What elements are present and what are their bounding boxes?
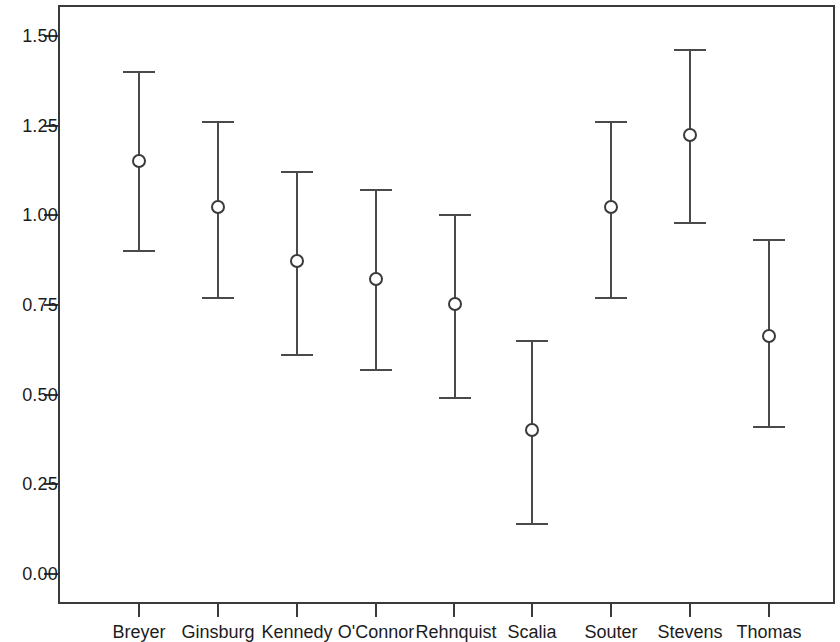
x-tick-mark-ginsburg xyxy=(217,604,219,617)
x-tick-label-ginsburg: Ginsburg xyxy=(181,623,254,641)
error-bar-lower-cap xyxy=(516,523,548,525)
error-bar-lower-cap xyxy=(123,250,155,252)
error-bar-souter[interactable] xyxy=(591,119,631,299)
y-tick-label-0-75: 0.75 xyxy=(22,296,58,314)
error-bar-upper-cap xyxy=(753,239,785,241)
data-point-marker[interactable] xyxy=(211,200,225,214)
error-bar-rehnquist[interactable] xyxy=(435,212,475,399)
x-tick-label-scalia: Scalia xyxy=(507,623,556,641)
error-bar-upper-cap xyxy=(360,189,392,191)
error-bar-upper-cap xyxy=(281,171,313,173)
error-bar-upper-cap xyxy=(674,49,706,51)
x-tick-label-breyer: Breyer xyxy=(112,623,165,641)
data-point-marker[interactable] xyxy=(369,272,383,286)
data-point-marker[interactable] xyxy=(604,200,618,214)
error-bar-ginsburg[interactable] xyxy=(198,119,238,299)
y-tick-label-0-25: 0.25 xyxy=(22,475,58,493)
x-tick-label-stevens: Stevens xyxy=(657,623,722,641)
error-bar-kennedy[interactable] xyxy=(277,169,317,356)
error-bar-lower-cap xyxy=(439,397,471,399)
x-tick-mark-thomas xyxy=(768,604,770,617)
x-tick-mark-oconnor xyxy=(375,604,377,617)
y-tick-label-0-50: 0.50 xyxy=(22,386,58,404)
error-bar-lower-cap xyxy=(674,222,706,224)
x-tick-mark-stevens xyxy=(689,604,691,617)
y-tick-label-1-50: 1.50 xyxy=(22,27,58,45)
error-bar-lower-cap xyxy=(595,297,627,299)
error-bar-lower-cap xyxy=(753,426,785,428)
data-point-marker[interactable] xyxy=(448,297,462,311)
error-bar-upper-cap xyxy=(202,121,234,123)
error-bar-upper-cap xyxy=(439,214,471,216)
error-bar-lower-cap xyxy=(281,354,313,356)
y-tick-label-0-00: 0.00 xyxy=(22,565,58,583)
data-point-marker[interactable] xyxy=(290,254,304,268)
error-bar-upper-cap xyxy=(516,340,548,342)
error-bar-stevens[interactable] xyxy=(670,47,710,223)
x-tick-mark-breyer xyxy=(138,604,140,617)
x-tick-mark-rehnquist xyxy=(453,604,455,617)
data-point-marker[interactable] xyxy=(525,423,539,437)
x-tick-label-oconnor: O'Connor xyxy=(338,623,414,641)
error-bar-thomas[interactable] xyxy=(749,237,789,428)
error-bar-scalia[interactable] xyxy=(512,338,552,525)
data-point-marker[interactable] xyxy=(132,154,146,168)
x-tick-label-souter: Souter xyxy=(584,623,637,641)
x-tick-mark-scalia xyxy=(531,604,533,617)
error-bar-upper-cap xyxy=(123,71,155,73)
y-tick-label-1-00: 1.00 xyxy=(22,206,58,224)
x-tick-mark-kennedy xyxy=(296,604,298,617)
error-bar-oconnor[interactable] xyxy=(356,187,396,370)
error-bar-upper-cap xyxy=(595,121,627,123)
error-bar-lower-cap xyxy=(360,369,392,371)
error-bar-breyer[interactable] xyxy=(119,69,159,252)
x-tick-label-thomas: Thomas xyxy=(736,623,801,641)
data-point-marker[interactable] xyxy=(762,329,776,343)
error-bar-lower-cap xyxy=(202,297,234,299)
x-tick-mark-souter xyxy=(610,604,612,617)
data-point-marker[interactable] xyxy=(683,128,697,142)
x-tick-label-rehnquist: Rehnquist xyxy=(415,623,496,641)
x-tick-label-kennedy: Kennedy xyxy=(261,623,332,641)
y-tick-label-1-25: 1.25 xyxy=(22,117,58,135)
